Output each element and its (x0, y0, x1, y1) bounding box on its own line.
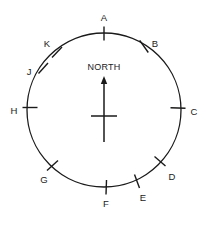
north-arrowhead-icon (101, 76, 107, 84)
point-label-k: K (44, 38, 51, 49)
point-label-g: G (40, 174, 47, 185)
north-arrow: NORTH (88, 62, 121, 142)
north-label: NORTH (88, 62, 121, 72)
point-label-d: D (169, 171, 176, 182)
point-label-e: E (140, 192, 146, 203)
tick-mark-e (135, 175, 140, 189)
point-label-a: A (101, 12, 108, 23)
point-label-c: C (191, 106, 198, 117)
point-label-j: J (27, 66, 32, 77)
compass-diagram-canvas: ABCDEFGHJK NORTH (0, 0, 208, 226)
point-label-f: F (103, 198, 109, 209)
tick-mark-g (47, 161, 58, 171)
point-label-h: H (11, 105, 18, 116)
tick-mark-c (171, 108, 186, 109)
tick-mark-f (106, 180, 107, 195)
point-label-b: B (152, 38, 158, 49)
compass-circle-diagram: ABCDEFGHJK NORTH (0, 0, 208, 226)
